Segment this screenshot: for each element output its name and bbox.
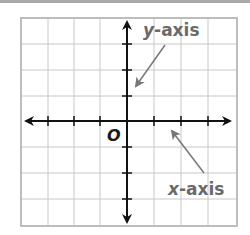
x-axis-label: x-axis [167, 179, 224, 199]
origin-label: O [107, 126, 121, 145]
y-axis-label: y-axis [143, 20, 200, 40]
coordinate-plane: O y-axis x-axis [0, 0, 250, 235]
x-axis-pointer-arrow [172, 131, 204, 173]
y-axis-pointer-arrow [136, 45, 165, 86]
y-axis-suffix: -axis [154, 20, 199, 40]
x-axis-suffix: -axis [179, 179, 224, 199]
